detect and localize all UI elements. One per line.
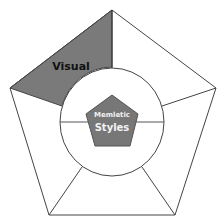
center-label-line1: Memletic bbox=[94, 111, 130, 119]
center-label-line2: Styles bbox=[95, 122, 130, 133]
segment-label-visual: Visual bbox=[52, 60, 90, 73]
connector-bottom-right bbox=[142, 167, 175, 215]
memletic-diagram: Visual Memletic Styles bbox=[0, 0, 222, 218]
connector-bottom-left bbox=[49, 167, 82, 215]
connector-right bbox=[162, 88, 216, 106]
